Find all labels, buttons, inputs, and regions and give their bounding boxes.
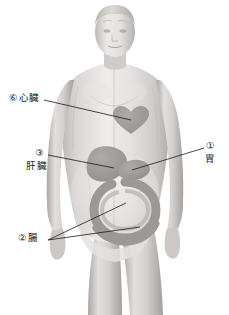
label-heart-number: ⑥ bbox=[9, 93, 18, 103]
label-liver: ③ 肝臓 bbox=[26, 148, 47, 171]
label-liver-number: ③ bbox=[32, 148, 47, 158]
label-stomach: ① 胃 bbox=[205, 141, 216, 164]
label-heart-text: 心臓 bbox=[19, 93, 40, 103]
label-stomach-text: 胃 bbox=[205, 154, 216, 164]
illustration-canvas: ⑥ 心臓 ③ 肝臓 ① 胃 ② 腸 bbox=[0, 0, 229, 315]
label-heart: ⑥ 心臓 bbox=[9, 93, 40, 103]
label-stomach-number: ① bbox=[205, 141, 216, 151]
label-intestine: ② 腸 bbox=[18, 233, 38, 243]
label-liver-text: 肝臓 bbox=[26, 161, 47, 171]
label-intestine-number: ② bbox=[18, 233, 27, 243]
label-intestine-text: 腸 bbox=[28, 233, 39, 243]
